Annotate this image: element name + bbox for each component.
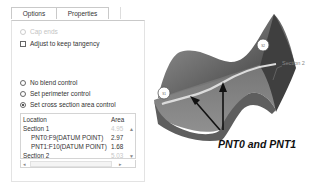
scroll-up-icon[interactable]: ▲ xyxy=(128,126,135,132)
location-cell: PNT1:F10(DATUM POINT) xyxy=(21,143,111,150)
tab-spacer xyxy=(109,7,121,19)
radio-perimeter-control[interactable]: Set perimeter control xyxy=(20,90,90,97)
cap-ends-label: Cap ends xyxy=(30,28,58,35)
radio-button[interactable] xyxy=(20,102,26,108)
cap-ends-checkbox[interactable] xyxy=(20,29,26,35)
table-row[interactable]: Section 1 4.95 ▲ xyxy=(21,124,135,133)
area-cell[interactable]: 2.97 xyxy=(111,134,128,141)
radio-button[interactable] xyxy=(20,91,26,97)
radio-no-blend-control[interactable]: No blend control xyxy=(20,79,77,86)
svg-text:S1: S1 xyxy=(162,92,166,96)
scroll-left-icon[interactable]: ◂ xyxy=(23,161,26,167)
blend-surface-figure: S1 S2 xyxy=(150,0,323,192)
tab-properties[interactable]: Properties xyxy=(57,7,109,19)
horizontal-scrollbar[interactable]: ◂ ▸ xyxy=(20,160,136,168)
adjust-tangency-label: Adjust to keep tangency xyxy=(30,40,99,47)
section-2-label: Section 2 xyxy=(282,60,305,66)
column-header-location: Location xyxy=(21,116,111,123)
area-table: Location Area Section 1 4.95 ▲ PNT0:F9(D… xyxy=(20,113,136,159)
pnt-callout-label: PNT0 and PNT1 xyxy=(218,138,296,150)
column-header-area: Area xyxy=(111,116,128,123)
cap-ends-option[interactable]: Cap ends xyxy=(20,28,58,35)
location-cell: PNT0:F9(DATUM POINT) xyxy=(21,134,111,141)
table-header: Location Area xyxy=(21,115,135,124)
area-cell[interactable]: 1.68 xyxy=(111,143,128,150)
radio-button[interactable] xyxy=(20,80,26,86)
radio-cross-section-area-control[interactable]: Set cross section area control xyxy=(20,101,116,108)
svg-text:S2: S2 xyxy=(261,44,265,48)
adjust-tangency-option[interactable]: Adjust to keep tangency xyxy=(20,40,99,47)
scrollbar-thumb[interactable] xyxy=(30,161,112,167)
radio-label: Set perimeter control xyxy=(30,90,90,97)
tab-options[interactable]: Options xyxy=(11,7,57,19)
table-row[interactable]: PNT1:F10(DATUM POINT) 1.68 xyxy=(21,142,135,151)
area-cell[interactable]: 5.03 xyxy=(111,152,128,159)
table-row[interactable]: Section 2 5.03 ▼ xyxy=(21,151,135,160)
area-cell[interactable]: 4.95 xyxy=(111,125,128,132)
tab-bar: Options Properties xyxy=(11,7,146,20)
table-row[interactable]: PNT0:F9(DATUM POINT) 2.97 xyxy=(21,133,135,142)
scroll-right-icon[interactable]: ▸ xyxy=(119,161,122,167)
radio-label: No blend control xyxy=(30,79,77,86)
location-cell: Section 1 xyxy=(21,125,111,132)
scroll-down-icon[interactable]: ▼ xyxy=(128,153,135,159)
radio-label: Set cross section area control xyxy=(30,101,116,108)
options-body: Cap ends Adjust to keep tangency No blen… xyxy=(11,20,145,182)
location-cell: Section 2 xyxy=(21,152,111,159)
blend-options-panel: Options Properties Cap ends Adjust to ke… xyxy=(11,7,146,182)
adjust-tangency-checkbox[interactable] xyxy=(20,41,26,47)
